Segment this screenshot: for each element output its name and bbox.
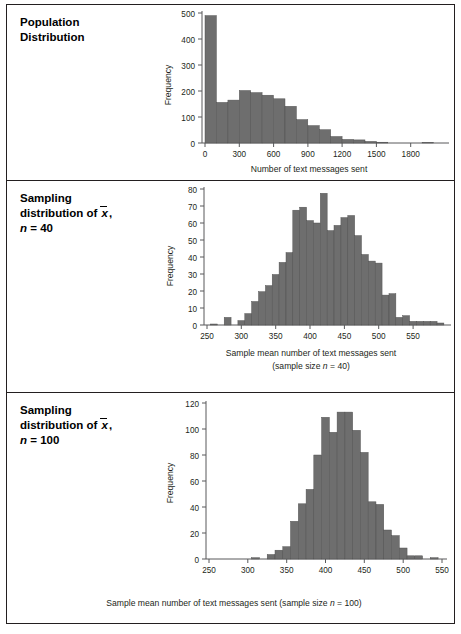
panel-2-y-tick-30: 30	[188, 271, 198, 280]
panel-1-y-tick-100: 100	[181, 114, 195, 123]
panel-3-y-tick-0: 0	[194, 556, 199, 565]
panel-3-plot-area: Frequency 120 100 80 60 40 20 0	[159, 393, 459, 623]
panel-2-y-tick-40: 40	[188, 254, 198, 263]
panel-1-x-tick-300: 300	[232, 150, 246, 159]
panel-1-y-tick-0: 0	[190, 140, 195, 149]
panel-2-caption: Sampling distribution of x, n = 40	[7, 181, 159, 392]
panel-2-x-tick-350: 350	[269, 332, 283, 341]
panel-2-plot-area: Frequency 80 70 60 50 40 30 20 10 0	[159, 181, 459, 392]
panel-1-x-ticks: 0 300 600 900 1200 1500 1800	[203, 143, 421, 159]
panel-3-y-tick-20: 20	[190, 530, 200, 539]
panel-2-caption-line-3: n = 40	[20, 221, 153, 236]
panel-2-x-axis-title-line-2: (sample size n = 40)	[272, 361, 350, 371]
panel-1-x-tick-600: 600	[267, 150, 281, 159]
panel-1-y-tick-200: 200	[181, 88, 195, 97]
panel-1-x-tick-1800: 1800	[402, 150, 421, 159]
panel-1-histogram: Frequency 500 400 300 200 100 0	[159, 5, 459, 180]
panel-3-caption: Sampling distribution of x, n = 100	[7, 393, 159, 623]
panel-3-y-tick-40: 40	[190, 504, 200, 513]
panel-2-caption-line-2: distribution of x,	[20, 206, 153, 221]
panel-2-x-tick-300: 300	[234, 332, 248, 341]
panel-3-x-axis-title: Sample mean number of text messages sent…	[106, 598, 361, 608]
x-bar-symbol: x	[100, 419, 108, 431]
panel-2-y-axis-title: Frequency	[165, 245, 175, 286]
panel-3-x-tick-300: 300	[241, 566, 255, 575]
panel-sampling-distribution-n40: Sampling distribution of x, n = 40 Frequ…	[6, 181, 455, 393]
panel-1-y-tick-500: 500	[181, 10, 195, 19]
panel-2-x-tick-550: 550	[406, 332, 420, 341]
panel-3-x-tick-250: 250	[202, 566, 216, 575]
panel-1-caption-line-2: Distribution	[20, 30, 153, 45]
panel-3-x-tick-350: 350	[280, 566, 294, 575]
panel-3-x-ticks: 250 300 350 400 450 500 550	[202, 559, 449, 575]
panel-1-x-tick-1200: 1200	[333, 150, 352, 159]
panel-3-y-tick-60: 60	[190, 478, 200, 487]
panel-2-x-axis-title-line-1: Sample mean number of text messages sent	[226, 348, 397, 358]
panel-1-plot-area: Frequency 500 400 300 200 100 0	[159, 5, 459, 180]
panel-3-bars	[252, 412, 438, 559]
panel-2-caption-line-1: Sampling	[20, 191, 153, 206]
panel-3-y-axis-title: Frequency	[165, 462, 175, 503]
figure-root: Population Distribution Frequency 500 40…	[0, 0, 461, 634]
panel-2-y-tick-0: 0	[192, 322, 197, 331]
panel-1-x-axis-title: Number of text messages sent	[251, 164, 368, 174]
panel-2-bars	[210, 193, 443, 325]
panel-3-x-axis-title-svg: Sample mean number of text messages sent…	[14, 593, 454, 613]
panel-1-x-tick-900: 900	[301, 150, 315, 159]
panel-3-x-tick-550: 550	[435, 566, 449, 575]
panel-population-distribution: Population Distribution Frequency 500 40…	[6, 4, 455, 181]
panel-3-caption-line-2: distribution of x,	[20, 418, 153, 433]
panel-2-y-ticks: 80 70 60 50 40 30 20 10 0	[188, 186, 204, 331]
panel-3-caption-line-1: Sampling	[20, 403, 153, 418]
panel-3-histogram: Frequency 120 100 80 60 40 20 0	[159, 393, 459, 622]
panel-3-y-ticks: 120 100 80 60 40 20 0	[185, 400, 206, 565]
panel-1-caption: Population Distribution	[7, 5, 159, 180]
panel-1-y-ticks: 500 400 300 200 100 0	[181, 10, 202, 149]
panel-1-x-tick-0: 0	[203, 150, 208, 159]
panel-2-y-tick-70: 70	[188, 203, 198, 212]
panel-2-y-tick-80: 80	[188, 186, 198, 195]
panel-1-y-tick-400: 400	[181, 36, 195, 45]
panel-1-y-tick-300: 300	[181, 62, 195, 71]
panel-2-y-tick-60: 60	[188, 220, 198, 229]
panel-3-x-tick-500: 500	[396, 566, 410, 575]
panel-2-y-tick-10: 10	[188, 305, 198, 314]
panel-1-y-axis-title: Frequency	[163, 64, 173, 105]
panel-1-x-tick-1500: 1500	[367, 150, 386, 159]
panel-3-caption-line-3: n = 100	[20, 433, 153, 448]
panel-2-x-tick-500: 500	[372, 332, 386, 341]
panel-2-y-tick-20: 20	[188, 288, 198, 297]
panel-2-x-tick-400: 400	[303, 332, 317, 341]
panel-3-y-tick-120: 120	[185, 400, 199, 409]
panel-2-x-tick-450: 450	[338, 332, 352, 341]
panel-3-x-tick-400: 400	[319, 566, 333, 575]
panel-1-bars	[205, 16, 434, 143]
panel-1-caption-line-1: Population	[20, 15, 153, 30]
panel-2-y-tick-50: 50	[188, 237, 198, 246]
panel-2-x-ticks: 250 300 350 400 450 500 550	[200, 325, 420, 341]
panel-3-x-tick-450: 450	[357, 566, 371, 575]
panel-3-y-tick-100: 100	[185, 426, 199, 435]
panel-2-x-tick-250: 250	[200, 332, 214, 341]
panel-sampling-distribution-n100: Sampling distribution of x, n = 100 Freq…	[6, 393, 455, 624]
x-bar-symbol: x	[100, 207, 108, 219]
panel-3-y-tick-80: 80	[190, 452, 200, 461]
panel-2-histogram: Frequency 80 70 60 50 40 30 20 10 0	[159, 181, 459, 391]
